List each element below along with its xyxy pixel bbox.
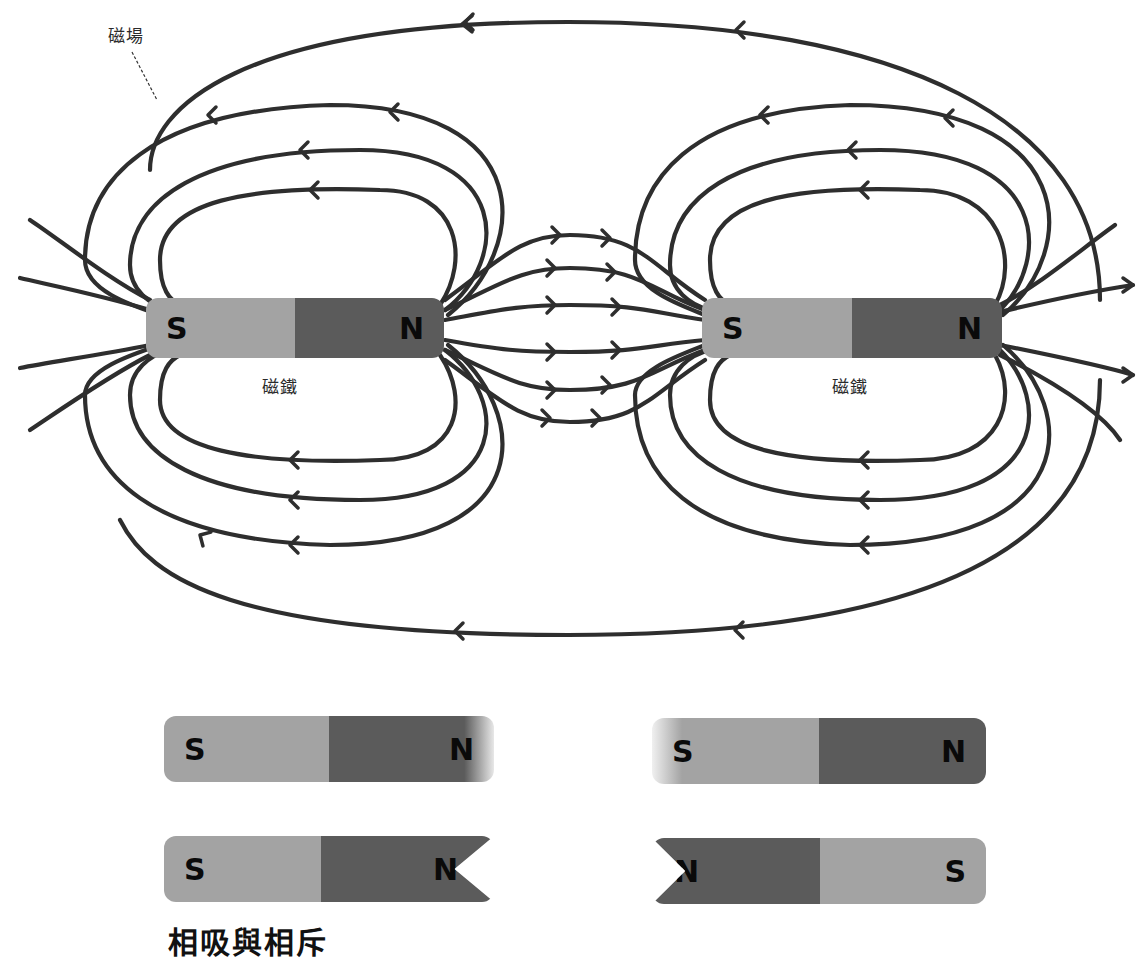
section-heading: 相吸與相斥	[168, 918, 328, 962]
north-pole: N	[852, 298, 1002, 358]
north-pole: N	[329, 716, 494, 782]
field-label: 磁場	[108, 22, 144, 47]
south-pole: S	[164, 836, 321, 902]
south-pole: S	[820, 838, 986, 904]
top-right-magnet: S N	[702, 298, 1002, 358]
south-pole: S	[652, 718, 819, 784]
bottom-magnet-4: N S	[652, 838, 986, 904]
north-pole: N	[295, 298, 444, 358]
field-label-leader	[132, 52, 157, 100]
bottom-magnet-1: S N	[164, 716, 494, 782]
south-pole: S	[146, 298, 295, 358]
central-field-lines	[445, 235, 705, 422]
top-left-magnet: S N	[146, 298, 444, 358]
right-outward-lines	[1000, 225, 1133, 440]
north-pole: N	[819, 718, 986, 784]
bottom-magnet-3: S N	[164, 836, 494, 902]
bottom-magnet-2: S N	[652, 718, 986, 784]
magnet-caption: 磁鐵	[832, 373, 868, 398]
south-pole: S	[164, 716, 329, 782]
south-pole: S	[702, 298, 852, 358]
magnet-caption: 磁鐵	[262, 373, 298, 398]
